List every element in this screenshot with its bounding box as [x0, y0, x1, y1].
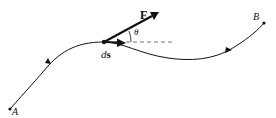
displacement-s: s [107, 48, 111, 60]
work-path-diagram [0, 0, 276, 118]
point-a-label: A [12, 107, 18, 117]
point-b-label: B [253, 12, 259, 22]
displacement-label: ds [101, 49, 111, 60]
point-b-dot [262, 21, 265, 24]
angle-label: θ [134, 28, 138, 37]
direction-arrow-icon [45, 58, 51, 64]
force-label: F [140, 9, 147, 21]
angle-arc [129, 31, 131, 42]
displacement-vector-arrow [104, 42, 119, 43]
application-point-dot [102, 40, 106, 44]
direction-arrow-icon [225, 47, 232, 53]
